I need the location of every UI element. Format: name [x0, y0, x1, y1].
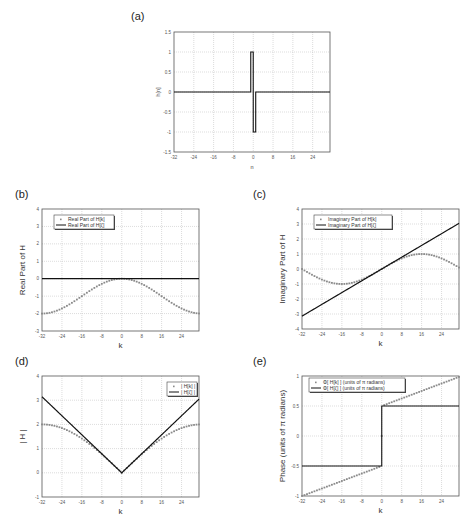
- x-tick-label: 16: [419, 499, 425, 504]
- y-tick-label: 3: [36, 398, 39, 403]
- x-tick-label: -8: [360, 332, 364, 337]
- x-tick-label: -8: [100, 334, 104, 339]
- x-tick-label: -32: [171, 155, 178, 160]
- y-tick-label: 1: [296, 252, 299, 257]
- y-tick-label: 4: [36, 374, 39, 379]
- x-tick-label: -16: [79, 500, 86, 505]
- legend: Φ[ H[k] ] (units of π radians)Φ[ H[ζ] ] …: [309, 378, 406, 393]
- x-tick-label: -24: [191, 155, 198, 160]
- chart-c: -32-24-16-8081624-4-3-2-101234kImaginary…: [278, 207, 460, 348]
- x-tick-label: -16: [339, 332, 346, 337]
- y-tick-label: 3: [36, 224, 39, 229]
- legend: | H[k] || H[ζ] |: [167, 382, 198, 397]
- x-tick-label: 8: [400, 499, 403, 504]
- x-tick-label: 0: [120, 334, 123, 339]
- figure-canvas: -32-24-16-8081624-1.5-1-0.500.511.5nh[n]…: [0, 0, 475, 528]
- x-tick-label: 24: [179, 334, 185, 339]
- x-tick-label: 8: [272, 155, 275, 160]
- x-tick-label: 16: [159, 334, 165, 339]
- y-axis-label: h[n]: [155, 87, 161, 97]
- y-tick-label: 4: [36, 207, 39, 212]
- x-tick-label: -8: [100, 500, 104, 505]
- x-axis-label: n: [250, 164, 253, 170]
- x-tick-label: -16: [210, 155, 217, 160]
- x-tick-label: -24: [59, 334, 66, 339]
- y-tick-label: -2: [35, 311, 39, 316]
- y-tick-label: -0.5: [291, 464, 299, 469]
- y-axis-label: | H |: [18, 429, 27, 443]
- y-tick-label: -2: [295, 297, 299, 302]
- x-tick-label: -16: [79, 334, 86, 339]
- x-tick-label: 24: [179, 500, 185, 505]
- x-axis-label: k: [119, 341, 124, 350]
- y-tick-label: 1: [168, 50, 171, 55]
- legend-entry-line: Real Part of H[ζ]: [68, 222, 105, 229]
- x-tick-label: -32: [39, 334, 46, 339]
- y-tick-label: -3: [295, 312, 299, 317]
- x-axis-label: k: [379, 506, 384, 515]
- legend-entry-line: | H[ζ] |: [181, 389, 195, 396]
- legend: Imaginary Part of H[k]Imaginary Part of …: [314, 215, 393, 230]
- x-tick-label: -32: [39, 500, 46, 505]
- x-axis-label: k: [379, 339, 384, 348]
- legend-entry-line: Φ[ H[ζ] ] (units of π radians): [323, 385, 385, 392]
- x-tick-label: 16: [159, 500, 165, 505]
- x-tick-label: -16: [339, 499, 346, 504]
- y-axis-label: Phase (units of π radians): [278, 390, 287, 483]
- y-tick-label: 4: [296, 207, 299, 212]
- y-tick-label: 0: [296, 267, 299, 272]
- y-tick-label: -4: [295, 327, 299, 332]
- y-tick-label: 1: [36, 446, 39, 451]
- x-axis-label: k: [119, 507, 124, 516]
- y-tick-label: 2: [36, 422, 39, 427]
- y-tick-label: -1: [295, 282, 299, 287]
- x-tick-label: 0: [252, 155, 255, 160]
- y-tick-label: -0.5: [163, 110, 171, 115]
- y-axis-label: Imaginary Part of H: [278, 234, 287, 303]
- y-tick-label: -3: [35, 329, 39, 334]
- x-tick-label: 16: [290, 155, 296, 160]
- legend-entry-line: Imaginary Part of H[ζ]: [328, 222, 377, 229]
- x-tick-label: -24: [319, 499, 326, 504]
- x-tick-label: -24: [319, 332, 326, 337]
- y-tick-label: -1: [295, 494, 299, 499]
- x-tick-label: -32: [299, 332, 306, 337]
- chart-e: -32-24-16-8081624-1-0.500.51kPhase (unit…: [278, 374, 460, 515]
- x-tick-label: 24: [439, 332, 445, 337]
- y-tick-label: -1: [35, 294, 39, 299]
- y-tick-label: 0: [36, 276, 39, 281]
- y-tick-label: -1.5: [163, 150, 171, 155]
- series-markers: [301, 376, 460, 497]
- x-tick-label: 24: [310, 155, 316, 160]
- chart-a: -32-24-16-8081624-1.5-1-0.500.511.5nh[n]: [155, 30, 330, 170]
- y-tick-label: 0.5: [293, 404, 300, 409]
- y-tick-label: 0: [168, 90, 171, 95]
- chart-b: -32-24-16-8081624-3-2-101234kReal Part o…: [18, 207, 200, 350]
- series-line: [42, 397, 199, 473]
- x-tick-label: 8: [140, 500, 143, 505]
- y-tick-label: -1: [35, 495, 39, 500]
- x-tick-label: -32: [299, 499, 306, 504]
- y-tick-label: 2: [296, 237, 299, 242]
- y-tick-label: 3: [296, 222, 299, 227]
- x-tick-label: 0: [120, 500, 123, 505]
- chart-d: -32-24-16-8081624-101234k| H || H[k] || …: [18, 374, 200, 516]
- y-axis-label: Real Part of H: [18, 245, 27, 295]
- x-tick-label: 16: [419, 332, 425, 337]
- x-tick-label: 0: [380, 499, 383, 504]
- legend: Real Part of H[k]Real Part of H[ζ]: [54, 215, 115, 230]
- x-tick-label: -8: [360, 499, 364, 504]
- grid: [302, 376, 459, 496]
- y-tick-label: 2: [36, 241, 39, 246]
- x-tick-label: -8: [231, 155, 235, 160]
- x-tick-label: 8: [400, 332, 403, 337]
- y-tick-label: -1: [167, 130, 171, 135]
- series-line: [302, 223, 459, 316]
- x-tick-label: 8: [140, 334, 143, 339]
- y-tick-label: 0.5: [165, 70, 172, 75]
- y-tick-label: 1.5: [165, 30, 172, 35]
- y-tick-label: 0: [36, 470, 39, 475]
- y-tick-label: 1: [296, 374, 299, 379]
- x-tick-label: -24: [59, 500, 66, 505]
- x-tick-label: 24: [439, 499, 445, 504]
